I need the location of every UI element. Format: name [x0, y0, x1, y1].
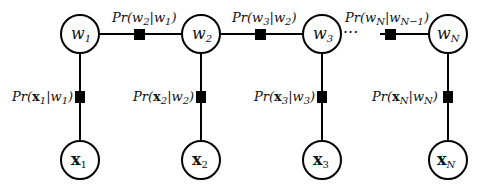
- factor-transition-2: [255, 29, 266, 40]
- node-w1: w1: [61, 15, 99, 53]
- chain-ellipsis: ···: [343, 23, 358, 42]
- factor-transition-N: [385, 29, 396, 40]
- node-x1: x1: [61, 141, 99, 179]
- node-wN: wN: [429, 15, 467, 53]
- node-xN: xN: [429, 141, 467, 179]
- factor-emission-N: [443, 91, 453, 103]
- node-w2: w2: [182, 15, 220, 53]
- node-w3: w3: [303, 15, 341, 53]
- label-transition-2: Pr(w3|w2): [231, 10, 297, 27]
- node-x2: x2: [182, 141, 220, 179]
- factor-emission-3: [317, 91, 327, 103]
- label-transition-1: Pr(w2|w1): [111, 10, 177, 27]
- label-emission-2: Pr(x2|w2): [132, 89, 194, 106]
- label-emission-3: Pr(x3|w3): [253, 89, 315, 106]
- node-x3: x3: [303, 141, 341, 179]
- label-transition-N: Pr(wN|wN−1): [344, 10, 429, 27]
- factor-transition-1: [134, 29, 145, 40]
- factor-emission-1: [75, 91, 85, 103]
- label-emission-1: Pr(x1|w1): [11, 89, 73, 106]
- factor-graph: w1 w2 w3 wN ··· x1 x2 x3 xN Pr(w2|w1) Pr…: [0, 0, 480, 190]
- factor-emission-2: [196, 91, 206, 103]
- label-emission-N: Pr(xN|wN): [371, 89, 438, 106]
